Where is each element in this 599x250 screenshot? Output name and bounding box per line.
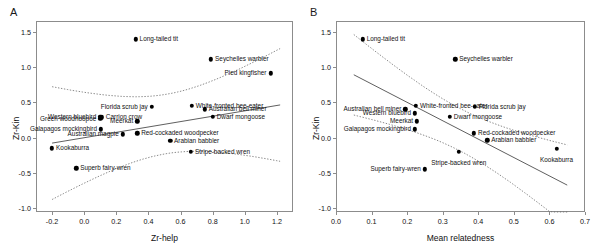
y-tick-label: 1.5 <box>3 28 31 37</box>
data-point-label: Green woodhoopoe <box>40 115 96 121</box>
x-tick <box>336 212 337 215</box>
x-tick-label: 0.6 <box>531 217 567 226</box>
panel-b-y-axis-title: Zr-Kin <box>311 117 321 140</box>
y-tick-label: -1.0 <box>3 204 31 213</box>
y-tick <box>33 173 36 174</box>
data-point-label: Florida scrub jay <box>101 103 148 109</box>
x-tick <box>277 212 278 215</box>
x-tick-label: 0.4 <box>460 217 496 226</box>
x-tick <box>585 212 586 215</box>
x-tick-label: 0.7 <box>567 217 599 226</box>
y-tick <box>33 102 36 103</box>
y-tick <box>33 208 36 209</box>
data-point-label: Galapagos mockingbird <box>344 126 411 132</box>
data-point-label: Dwarf mongoose <box>454 114 502 120</box>
data-point-label: Arabian babbler <box>174 137 219 143</box>
data-point-label: Dwarf mongoose <box>217 113 265 119</box>
y-tick <box>333 173 336 174</box>
data-point-label: Florida scrub jay <box>479 103 526 109</box>
y-tick <box>33 32 36 33</box>
data-point-label: Arabian babbler <box>491 137 536 143</box>
data-point-label: Long-tailed tit <box>367 36 405 42</box>
x-tick <box>549 212 550 215</box>
y-tick <box>333 32 336 33</box>
panel-a-y-axis-title: Zr-Kin <box>11 117 21 140</box>
y-tick-label: 1.0 <box>303 63 331 72</box>
y-tick <box>33 138 36 139</box>
y-tick-label: 1.0 <box>3 63 31 72</box>
x-tick <box>213 212 214 215</box>
panel-b: B 0.00.10.20.30.40.50.60.7-1.0-0.50.00.5… <box>300 0 599 250</box>
data-point-label: Pied kingfisher <box>225 70 267 76</box>
data-point-label: Meerkat <box>110 118 133 124</box>
data-point-label: Superb fairy-wren <box>370 166 420 172</box>
x-tick <box>52 212 53 215</box>
data-point-label: Australian magpie <box>68 131 119 137</box>
y-tick <box>333 138 336 139</box>
panel-b-x-axis-title: Mean relatedness <box>336 233 585 243</box>
x-tick-label: 0.5 <box>496 217 532 226</box>
x-tick-label: 0.0 <box>318 217 354 226</box>
data-point-label: Seychelles warbler <box>215 56 269 62</box>
data-point-label: Kookaburra <box>56 145 89 151</box>
y-tick-label: -0.5 <box>3 169 31 178</box>
data-point-label: Stripe-backed wren <box>431 160 486 166</box>
y-tick <box>333 67 336 68</box>
data-point-label: Meerkat <box>390 118 413 124</box>
data-point-label: Stripe-backed wren <box>195 149 250 155</box>
data-point-label: Kookaburra <box>540 157 573 163</box>
y-tick-label: -0.5 <box>303 169 331 178</box>
data-point-label: Seychelles warbler <box>459 56 513 62</box>
x-tick-label: 0.6 <box>163 217 199 226</box>
panel-a-x-axis-title: Zr-help <box>36 233 293 243</box>
x-tick <box>181 212 182 215</box>
y-tick <box>33 67 36 68</box>
x-tick-label: -0.2 <box>34 217 70 226</box>
y-tick-label: 1.5 <box>303 28 331 37</box>
data-point-label: Long-tailed tit <box>140 36 178 42</box>
x-tick <box>443 212 444 215</box>
x-tick-label: 1.2 <box>259 217 295 226</box>
x-tick <box>84 212 85 215</box>
x-tick <box>148 212 149 215</box>
y-tick-label: 0.5 <box>303 98 331 107</box>
x-tick-label: 1.0 <box>227 217 263 226</box>
data-point-label: Superb fairy-wren <box>80 165 130 171</box>
y-tick <box>333 102 336 103</box>
x-tick <box>478 212 479 215</box>
x-tick-label: 0.3 <box>425 217 461 226</box>
x-tick <box>116 212 117 215</box>
x-tick <box>514 212 515 215</box>
x-tick-label: 0.4 <box>130 217 166 226</box>
panel-a: A -0.20.00.20.40.60.81.01.2-1.0-0.50.00.… <box>0 0 300 250</box>
x-tick <box>372 212 373 215</box>
y-tick <box>333 208 336 209</box>
x-tick-label: 0.0 <box>66 217 102 226</box>
x-tick-label: 0.2 <box>98 217 134 226</box>
confidence-band-curve <box>52 151 280 199</box>
x-tick-label: 0.2 <box>389 217 425 226</box>
y-tick-label: 0.5 <box>3 98 31 107</box>
x-tick-label: 0.1 <box>354 217 390 226</box>
data-point-label: Western bluebird <box>363 110 411 116</box>
x-tick <box>245 212 246 215</box>
data-point-label: White-fronted bee-eater <box>420 103 488 109</box>
x-tick <box>407 212 408 215</box>
y-tick-label: -1.0 <box>303 204 331 213</box>
x-tick-label: 0.8 <box>195 217 231 226</box>
